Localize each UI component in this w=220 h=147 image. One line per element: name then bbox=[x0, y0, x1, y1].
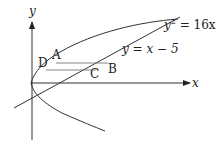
point-label-D: D bbox=[38, 56, 48, 70]
parabola-curve bbox=[31, 19, 178, 131]
y-axis-label: y bbox=[28, 4, 36, 18]
point-label-C: C bbox=[90, 67, 99, 81]
point-label-B: B bbox=[108, 62, 117, 76]
parabola-equation: y2 = 16x bbox=[163, 17, 216, 32]
point-label-A: A bbox=[51, 48, 61, 62]
line-equation: y = x − 5 bbox=[121, 42, 179, 56]
x-axis-label: x bbox=[192, 76, 199, 90]
parabola-line-diagram: y x A B C D y2 = 16x y = x − 5 bbox=[0, 0, 220, 147]
